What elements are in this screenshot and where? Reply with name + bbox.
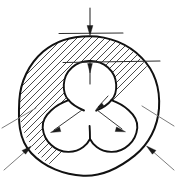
cross-section-svg — [0, 0, 176, 189]
technical-drawing-figure — [0, 0, 176, 189]
top-dimension-arrow — [87, 8, 93, 36]
top-dimension-arrowhead — [87, 26, 93, 36]
outer-reference-line — [59, 33, 123, 34]
